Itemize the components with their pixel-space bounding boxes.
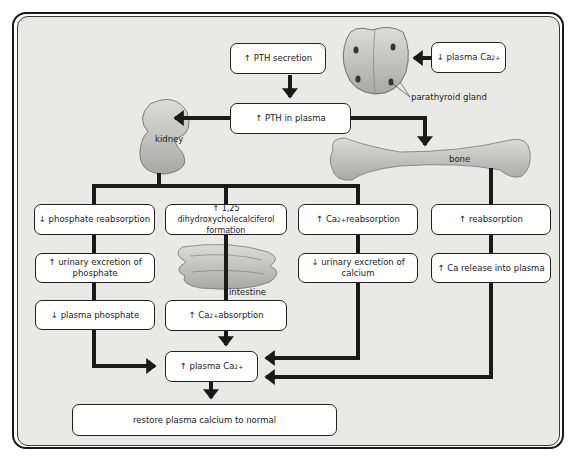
bone-reabs-text: reabsorption	[469, 214, 523, 225]
bone-reabsorption-box: ↑ reabsorption	[431, 204, 551, 235]
down-arrow-icon: ↓	[39, 214, 46, 225]
restore-text: restore plasma calcium to normal	[133, 415, 276, 426]
up-arrow-icon: ↑	[180, 361, 187, 372]
down-arrow-icon: ↓	[51, 310, 58, 321]
kidney-label: kidney	[155, 134, 183, 144]
up-arrow-icon: ↑	[212, 204, 219, 213]
pth-secretion-text: PTH secretion	[254, 53, 313, 64]
ca-absorption-box: ↑ Ca2+ absorption	[165, 300, 287, 331]
up-arrow-icon: ↑	[437, 263, 444, 274]
plasma-ca-decrease-box: ↓ plasma Ca2+	[431, 42, 506, 73]
dihydroxy-text: 1,25 dihydroxycholecalciferol formation	[177, 204, 274, 235]
bone-icon	[330, 138, 530, 180]
plasma-ca-increase-box: ↑ plasma Ca2+	[165, 351, 258, 382]
plasma-phosphate-text: plasma phosphate	[61, 310, 140, 321]
restore-calcium-box: restore plasma calcium to normal	[72, 404, 337, 436]
absorption-text: absorption	[218, 310, 263, 321]
ca-text: Ca	[198, 310, 209, 321]
ca-release-text: Ca release into plasma	[447, 263, 544, 274]
plasma-phosphate-box: ↓ plasma phosphate	[35, 300, 155, 330]
pth-secretion-box: ↑ PTH secretion	[230, 43, 326, 74]
ca-text: Ca	[326, 214, 337, 225]
dihydroxycholecalciferol-box: ↑ 1,25 dihydroxycholecalciferol formatio…	[165, 204, 287, 235]
urinary-calcium-box: ↓ urinary excretion of calcium	[298, 253, 418, 283]
urinary-phosphate-box: ↑ urinary excretion of phosphate	[35, 253, 155, 283]
phosphate-reabs-text: phosphate reabsorption	[49, 214, 151, 225]
up-arrow-icon: ↑	[48, 257, 55, 267]
urinary-calcium-text: urinary excretion of calcium	[321, 257, 404, 278]
bone-label: bone	[449, 154, 470, 164]
up-arrow-icon: ↑	[188, 310, 195, 321]
intestine-label: intestine	[229, 287, 266, 297]
up-arrow-icon: ↑	[316, 214, 323, 225]
phosphate-reabsorption-box: ↓ phosphate reabsorption	[34, 204, 155, 235]
ca-reabsorption-box: ↑ Ca2+ reabsorption	[298, 204, 418, 235]
down-arrow-icon: ↓	[311, 257, 318, 267]
pth-in-plasma-box: ↑ PTH in plasma	[230, 103, 351, 134]
ca-release-box: ↑ Ca release into plasma	[431, 253, 551, 283]
plasma-ca-text: plasma Ca	[447, 52, 492, 63]
parathyroid-label: parathyroid gland	[411, 92, 487, 102]
up-arrow-icon: ↑	[459, 214, 466, 225]
reabsorption-text: reabsorption	[346, 214, 400, 225]
down-arrow-icon: ↓	[437, 52, 444, 63]
pth-plasma-text: PTH in plasma	[265, 113, 326, 124]
parathyroid-gland-icon	[343, 27, 410, 97]
up-arrow-icon: ↑	[244, 53, 251, 64]
urinary-phosphate-text: urinary excretion of phosphate	[58, 257, 141, 278]
plasma-ca-text: plasma Ca	[190, 361, 235, 372]
up-arrow-icon: ↑	[255, 113, 262, 124]
